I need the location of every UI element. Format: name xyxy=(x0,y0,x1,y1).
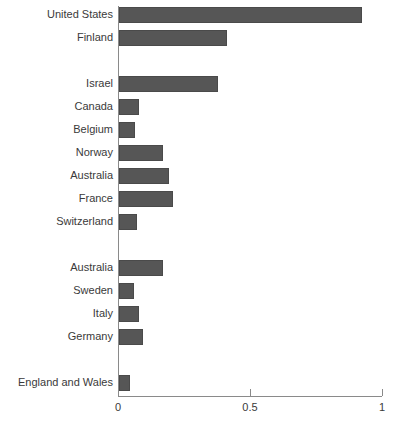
bar-category-label: Italy xyxy=(93,307,113,320)
bar xyxy=(119,329,143,345)
bar-category-label: Israel xyxy=(86,77,113,90)
bar-row: France xyxy=(0,189,397,212)
bar xyxy=(119,99,139,115)
bar-row: Italy xyxy=(0,304,397,327)
bar-row: Australia xyxy=(0,258,397,281)
bar xyxy=(119,283,134,299)
bar-row: Canada xyxy=(0,97,397,120)
bar-row: Switzerland xyxy=(0,212,397,235)
bar-category-label: Australia xyxy=(70,261,113,274)
bar-category-label: United States xyxy=(47,8,113,21)
x-tick-mark xyxy=(382,389,383,396)
bar-row: Germany xyxy=(0,327,397,350)
bar-category-label: England and Wales xyxy=(18,376,113,389)
bar-category-label: Belgium xyxy=(73,123,113,136)
x-tick-mark xyxy=(250,389,251,396)
bar xyxy=(119,76,218,92)
bar-row: Norway xyxy=(0,143,397,166)
plot-area: United StatesFinlandIsraelCanadaBelgiumN… xyxy=(0,0,397,437)
x-tick-label: 0 xyxy=(115,401,121,413)
bar-row: Finland xyxy=(0,28,397,51)
bar-row: Sweden xyxy=(0,281,397,304)
bar xyxy=(119,306,139,322)
x-tick-mark xyxy=(118,389,119,396)
bar-row-spacer xyxy=(0,51,397,74)
bar-category-label: Finland xyxy=(77,31,113,44)
bar-chart: United StatesFinlandIsraelCanadaBelgiumN… xyxy=(0,0,397,437)
x-tick-label: 1 xyxy=(379,401,385,413)
bar-category-label: Australia xyxy=(70,169,113,182)
bar-category-label: Sweden xyxy=(73,284,113,297)
bar xyxy=(119,30,227,46)
x-tick-label: 0.5 xyxy=(242,401,257,413)
bar-category-label: Switzerland xyxy=(56,215,113,228)
bar-category-label: Norway xyxy=(76,146,113,159)
bar-category-label: France xyxy=(79,192,113,205)
bar xyxy=(119,375,130,391)
bar-row: Australia xyxy=(0,166,397,189)
bar-row: England and Wales xyxy=(0,373,397,396)
bar xyxy=(119,260,163,276)
bar-row: Israel xyxy=(0,74,397,97)
bar-category-label: Canada xyxy=(74,100,113,113)
bar-row: Belgium xyxy=(0,120,397,143)
bar-row-spacer xyxy=(0,235,397,258)
bar-row-spacer xyxy=(0,350,397,373)
bar xyxy=(119,145,163,161)
bar xyxy=(119,122,135,138)
x-axis-line xyxy=(118,396,382,397)
bar xyxy=(119,7,362,23)
bar xyxy=(119,214,137,230)
bar xyxy=(119,168,169,184)
bar-row: United States xyxy=(0,5,397,28)
bar xyxy=(119,191,173,207)
bar-category-label: Germany xyxy=(68,330,113,343)
